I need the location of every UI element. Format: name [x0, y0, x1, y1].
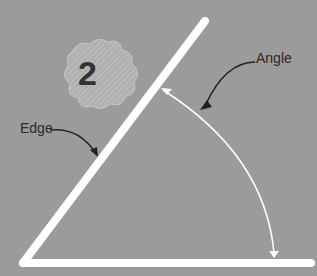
- edge-pointer: [50, 130, 95, 152]
- edge-pointer-arrowhead: [90, 147, 98, 157]
- badge-number: 2: [78, 54, 97, 93]
- cloud-badge: [64, 39, 137, 108]
- edge-label: Edge: [20, 120, 53, 136]
- angle-arc: [163, 90, 274, 253]
- angle-label: Angle: [256, 50, 292, 66]
- angle-pointer: [205, 62, 255, 106]
- angle-pointer-arrowhead: [200, 100, 212, 110]
- arc-arrowhead-bottom: [269, 251, 279, 258]
- angle-diagram: [0, 0, 317, 276]
